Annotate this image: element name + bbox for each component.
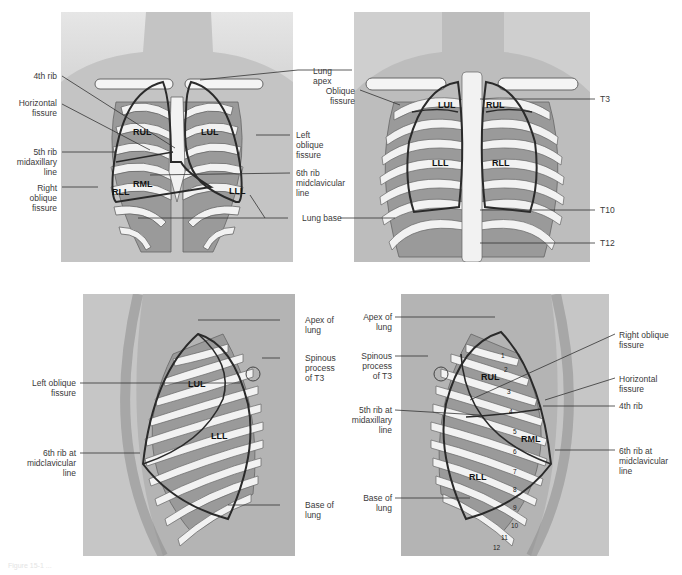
rib-number: 1 [501, 352, 505, 359]
rib-number: 7 [513, 468, 517, 475]
anterior-chest-illustration: RUL LUL RML RLL LLL [61, 12, 293, 262]
label-4th-rib: 4th rib [0, 71, 57, 81]
label-6th-rib-midclavicular: 6th rib midclavicular line [296, 168, 345, 198]
label-left-oblique-fissure-lateral: Left oblique fissure [0, 378, 76, 398]
lobe-lll: LLL [211, 431, 228, 441]
label-t10: T10 [600, 205, 615, 215]
rib-number: 6 [513, 448, 517, 455]
rib-number: 4 [509, 408, 513, 415]
figure-caption: Figure 15-1 ... [8, 562, 52, 569]
label-oblique-fissure: Oblique fissure [300, 86, 355, 106]
lobe-rul: RUL [486, 100, 505, 110]
label-t12: T12 [600, 238, 615, 248]
label-6th-rib-midclavicular-left: 6th rib at midclavicular line [0, 448, 76, 478]
rib-number: 9 [513, 504, 517, 511]
label-5th-rib-midaxillary-right: 5th rib at midaxillary line [330, 405, 392, 435]
left-lateral-illustration: LUL LLL [83, 294, 295, 556]
rib-number: 10 [511, 522, 519, 529]
lobe-rll: RLL [469, 472, 487, 482]
label-lung-base: Lung base [302, 213, 342, 223]
right-lateral-illustration: 1 2 3 4 5 6 7 8 9 10 11 12 RUL RML RLL [401, 294, 609, 556]
label-spinous-process-right: Spinous process of T3 [330, 351, 392, 381]
label-base-of-lung-right: Base of lung [330, 493, 392, 513]
rib-number: 3 [507, 388, 511, 395]
label-5th-rib-midaxillary: 5th rib midaxillary line [0, 147, 57, 177]
label-4th-rib-lateral: 4th rib [619, 401, 643, 411]
lobe-lul: LUL [201, 127, 219, 137]
label-apex-of-lung-right: Apex of lung [330, 312, 392, 332]
label-left-oblique-fissure: Left oblique fissure [296, 130, 323, 160]
lobe-lll: LLL [432, 158, 449, 168]
label-t3: T3 [600, 94, 610, 104]
rib-number: 2 [504, 366, 508, 373]
posterior-chest-panel: LUL RUL LLL RLL [354, 12, 590, 262]
label-right-oblique-fissure-lateral: Right oblique fissure [619, 330, 669, 350]
lobe-rml: RML [521, 434, 541, 444]
right-lateral-panel: 1 2 3 4 5 6 7 8 9 10 11 12 RUL RML RLL [401, 294, 609, 556]
rib-number: 12 [493, 544, 501, 551]
label-6th-rib-midclavicular-right: 6th rib at midclavicular line [619, 446, 668, 476]
label-right-oblique-fissure: Right oblique fissure [0, 183, 57, 213]
anterior-chest-panel: RUL LUL RML RLL LLL [61, 12, 293, 262]
lobe-rul: RUL [133, 127, 152, 137]
left-lateral-panel: LUL LLL [83, 294, 295, 556]
lobe-rll: RLL [492, 158, 510, 168]
lobe-rll: RLL [112, 187, 130, 197]
lobe-lll: LLL [229, 186, 246, 196]
posterior-chest-illustration: LUL RUL LLL RLL [354, 12, 590, 262]
label-horizontal-fissure-lateral: Horizontal fissure [619, 374, 657, 394]
rib-number: 11 [501, 534, 508, 541]
rib-number: 8 [513, 486, 517, 493]
lobe-lul: LUL [438, 100, 456, 110]
rib-number: 5 [513, 428, 517, 435]
lobe-rul: RUL [481, 372, 500, 382]
label-lung-apex: Lung apex [313, 66, 332, 86]
label-horizontal-fissure: Horizontal fissure [0, 98, 57, 118]
lobe-rml: RML [133, 179, 153, 189]
lobe-lul: LUL [188, 379, 206, 389]
